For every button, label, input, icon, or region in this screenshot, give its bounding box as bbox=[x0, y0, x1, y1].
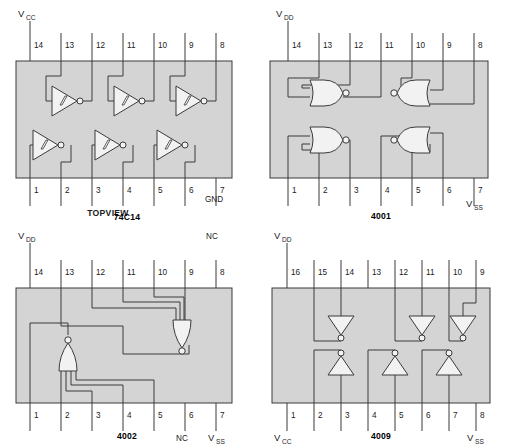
pin-number: 6 bbox=[426, 411, 431, 420]
pin-number: 14 bbox=[34, 268, 44, 277]
pin-number: 6 bbox=[189, 186, 194, 195]
pin-number: 3 bbox=[345, 411, 350, 420]
pin-number: 14 bbox=[292, 41, 302, 50]
pin-number: 9 bbox=[447, 41, 452, 50]
package-body bbox=[272, 288, 490, 403]
vcc-label: V bbox=[18, 8, 25, 19]
gnd-label: GND bbox=[205, 195, 223, 204]
pin-number: 3 bbox=[96, 186, 101, 195]
pin-number: 9 bbox=[189, 41, 194, 50]
pin-number: 10 bbox=[158, 41, 168, 50]
vdd-subscript: DD bbox=[26, 236, 36, 243]
pin-number: 13 bbox=[65, 41, 75, 50]
part-label-74c14-wrap: 74C14 bbox=[0, 206, 254, 224]
part-label-4002-wrap: 4002 bbox=[0, 425, 254, 443]
vcc-subscript: CC bbox=[26, 14, 36, 21]
pin-number: 14 bbox=[34, 41, 44, 50]
power-rail-label: V DD bbox=[18, 230, 36, 243]
vdd-subscript: DD bbox=[284, 14, 294, 21]
pin-number: 7 bbox=[220, 186, 225, 195]
pin-number: 12 bbox=[399, 268, 409, 277]
power-rail-label: V CC bbox=[18, 8, 36, 21]
pin-number: 8 bbox=[478, 41, 483, 50]
part-label: 4001 bbox=[371, 211, 391, 221]
part-label: 4002 bbox=[117, 431, 137, 441]
pin-number: 9 bbox=[189, 268, 194, 277]
part-label-4009-wrap: 4009 bbox=[254, 425, 508, 443]
package-body bbox=[16, 288, 232, 403]
pin-number: 6 bbox=[189, 411, 194, 420]
pin-number: 1 bbox=[34, 411, 39, 420]
pin-number: 5 bbox=[158, 411, 163, 420]
package-diagram-74c14: 14 13 12 11 10 9 8 1 2 3 4 5 6 7 V CC GN… bbox=[0, 0, 254, 223]
pin-number: 8 bbox=[480, 411, 485, 420]
pin-number: 11 bbox=[127, 41, 136, 50]
pin-number: 10 bbox=[453, 268, 463, 277]
pin-number: 13 bbox=[65, 268, 75, 277]
pin-number: 11 bbox=[127, 268, 136, 277]
pinout-diagram-sheet: 14 13 12 11 10 9 8 1 2 3 4 5 6 7 V CC GN… bbox=[0, 0, 508, 446]
pin-number: 2 bbox=[65, 186, 70, 195]
part-label: 4009 bbox=[371, 431, 391, 441]
pin-number: 3 bbox=[354, 186, 359, 195]
vdd-label: V bbox=[274, 230, 281, 241]
nc-label-top: NC bbox=[206, 232, 218, 241]
pin-number: 5 bbox=[399, 411, 404, 420]
package-diagram-4009: 16 15 14 13 12 11 10 9 1 2 3 4 5 6 7 8 V… bbox=[254, 223, 508, 446]
pin-number: 2 bbox=[318, 411, 323, 420]
pin-number: 4 bbox=[127, 411, 132, 420]
part-label-4001-wrap: 4001 bbox=[254, 205, 508, 223]
pin-number: 4 bbox=[385, 186, 390, 195]
pin-number: 12 bbox=[354, 41, 364, 50]
pin-number: 12 bbox=[96, 41, 106, 50]
pin-number: 16 bbox=[291, 268, 301, 277]
pin-number: 6 bbox=[447, 186, 452, 195]
package-body bbox=[16, 61, 232, 178]
pin-number: 1 bbox=[291, 411, 296, 420]
pin-number: 12 bbox=[96, 268, 106, 277]
pin-number: 5 bbox=[158, 186, 163, 195]
pin-number: 13 bbox=[372, 268, 382, 277]
pin-number: 1 bbox=[34, 186, 39, 195]
pin-number: 13 bbox=[323, 41, 333, 50]
pin-number: 14 bbox=[345, 268, 355, 277]
vdd-label: V bbox=[18, 230, 25, 241]
part-label: 74C14 bbox=[114, 212, 140, 222]
pin-number: 8 bbox=[220, 268, 225, 277]
pin-number: 10 bbox=[416, 41, 426, 50]
pin-number: 2 bbox=[323, 186, 328, 195]
pin-number: 15 bbox=[318, 268, 328, 277]
pin-number: 2 bbox=[65, 411, 70, 420]
pin-number: 5 bbox=[416, 186, 421, 195]
pin-number: 3 bbox=[96, 411, 101, 420]
package-body bbox=[270, 61, 488, 178]
pin-number: 1 bbox=[292, 186, 297, 195]
pin-number: 7 bbox=[453, 411, 458, 420]
pin-number: 10 bbox=[158, 268, 168, 277]
pin-number: 9 bbox=[480, 268, 485, 277]
pin-number: 4 bbox=[372, 411, 377, 420]
pin-number: 7 bbox=[220, 411, 225, 420]
pin-number: 11 bbox=[426, 268, 435, 277]
vdd-subscript: DD bbox=[282, 236, 292, 243]
pin-number: 11 bbox=[385, 41, 394, 50]
package-diagram-4002: 14 13 12 11 10 9 8 1 2 3 4 5 6 7 V DD NC… bbox=[0, 223, 254, 446]
package-diagram-4001: 14 13 12 11 10 9 8 1 2 3 4 5 6 7 V DD V … bbox=[254, 0, 508, 223]
pin-number: 7 bbox=[478, 186, 483, 195]
power-rail-label: V DD bbox=[274, 230, 292, 243]
power-rail-label: V DD bbox=[276, 8, 294, 21]
pin-number: 4 bbox=[127, 186, 132, 195]
pin-number: 8 bbox=[220, 41, 225, 50]
vdd-label: V bbox=[276, 8, 283, 19]
